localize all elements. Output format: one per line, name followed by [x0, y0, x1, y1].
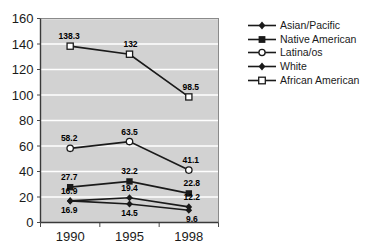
- data-point-label: 22.8: [184, 178, 201, 188]
- legend-item: African American: [247, 73, 383, 87]
- series-marker: [186, 167, 192, 173]
- data-point-label: 14.5: [121, 208, 138, 218]
- y-axis-tick-label: 0: [26, 215, 33, 230]
- chart-legend: Asian/Pacific Native American Latina/os …: [247, 19, 383, 87]
- y-axis-tick-label: 120: [12, 62, 34, 77]
- legend-label-white: White: [277, 60, 307, 73]
- legend-item: Asian/Pacific: [247, 19, 383, 33]
- y-axis-tick-label: 80: [19, 113, 33, 128]
- data-point-label: 19.4: [121, 183, 138, 193]
- series-marker: [126, 138, 132, 144]
- legend-marker-african-american: [247, 74, 277, 87]
- series-marker: [186, 94, 192, 100]
- data-point-label: 138.3: [59, 31, 81, 41]
- legend-label-african-american: African American: [277, 74, 359, 87]
- series-marker: [67, 43, 73, 49]
- data-point-label: 16.9: [61, 205, 78, 215]
- y-axis-tick-label: 140: [12, 37, 34, 52]
- y-axis-tick-label: 20: [19, 190, 33, 205]
- y-axis-tick-label: 160: [12, 11, 34, 26]
- legend-item: Latina/os: [247, 46, 383, 60]
- legend-label-native-american: Native American: [277, 33, 356, 46]
- legend-marker-latinaos: [247, 46, 277, 59]
- legend-item: Native American: [247, 33, 383, 47]
- legend-item: White: [247, 60, 383, 74]
- legend-marker-white: [247, 60, 277, 73]
- data-point-label: 32.2: [121, 166, 138, 176]
- y-axis-tick-label: 100: [12, 88, 34, 103]
- data-point-label: 98.5: [183, 82, 200, 92]
- data-point-label: 41.1: [183, 155, 200, 165]
- data-point-label: 12.2: [184, 192, 201, 202]
- chart-container: 160140120100806040200 199019951998 16.91…: [0, 0, 383, 249]
- x-axis-tick-label: 1995: [115, 229, 144, 244]
- y-axis-tick-label: 60: [19, 139, 33, 154]
- legend-label-latinaos: Latina/os: [277, 46, 323, 59]
- y-axis-labels-group: 160140120100806040200: [12, 11, 34, 230]
- y-axis-tick-label: 40: [19, 164, 33, 179]
- data-point-label: 63.5: [121, 127, 138, 137]
- series-marker: [126, 51, 132, 57]
- data-point-label: 16.9: [61, 186, 78, 196]
- data-point-label: 132: [123, 39, 137, 49]
- legend-marker-asian-pacific: [247, 19, 277, 32]
- legend-label-asian-pacific: Asian/Pacific: [277, 19, 340, 32]
- data-point-label: 58.2: [61, 133, 78, 143]
- legend-marker-native-american: [247, 33, 277, 46]
- series-marker: [67, 145, 73, 151]
- x-axis-tick-label: 1998: [174, 229, 203, 244]
- x-axis-tick-label: 1990: [56, 229, 85, 244]
- data-point-label: 27.7: [61, 172, 78, 182]
- x-axis-labels-group: 199019951998: [56, 229, 204, 244]
